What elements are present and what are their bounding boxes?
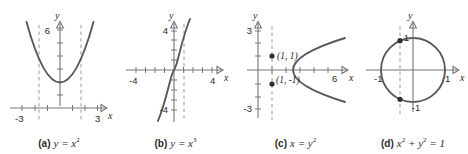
panel-b-plot: y x 4 -4 -4 4: [118, 0, 233, 128]
panel-a: y x 6 -3 3 (a)y = x2: [0, 0, 118, 154]
point-label-1-neg1: (1, -1): [276, 75, 300, 86]
y-axis-label: y: [168, 10, 174, 21]
panel-b: y x 4 -4 -4 4 (b)y = x3: [118, 0, 233, 154]
panel-b-svg: y x 4 -4 -4 4: [118, 0, 233, 128]
x-axis-label: x: [223, 72, 229, 83]
panel-a-equation: y = x2: [54, 137, 80, 149]
panel-c-svg: y x 3 -3 6 (1, 1) (1, -1): [233, 0, 358, 128]
panel-d-equation-base: x2 + y2 = 1: [397, 137, 445, 149]
x-tick-label-neg4: -4: [129, 75, 137, 86]
vertical-line-test-figure: y x 6 -3 3 (a)y = x2: [0, 0, 468, 154]
panel-a-tag: (a): [38, 138, 50, 149]
panel-b-caption: (b)y = x3: [118, 136, 233, 149]
panel-b-equation-exponent: 3: [193, 136, 197, 144]
panel-c-tag: (c): [275, 138, 287, 149]
panel-c-equation: x = y2: [290, 137, 316, 149]
x-tick-label-6: 6: [332, 73, 337, 84]
panel-d-equation: x2 + y2 = 1: [397, 137, 445, 149]
panel-b-tag: (b): [155, 138, 168, 149]
panel-c-equation-exponent: 2: [313, 136, 317, 144]
panel-c-equation-base: x = y: [290, 137, 313, 149]
x-axis-label: x: [459, 72, 465, 83]
x-tick-label-4: 4: [210, 75, 215, 86]
x-tick-label-3: 3: [95, 113, 100, 124]
y-tick-label-neg1: -1: [412, 102, 420, 113]
panel-d-tag: (d): [381, 138, 394, 149]
y-tick-label-1: 1: [404, 32, 409, 43]
panel-c-plot: y x 3 -3 6 (1, 1) (1, -1): [233, 0, 358, 128]
x-tick-label-1: 1: [445, 73, 450, 84]
y-tick-label-3: 3: [247, 25, 252, 36]
dot-lower-intersection: [397, 97, 402, 102]
panel-c: y x 3 -3 6 (1, 1) (1, -1) (c)x = y2: [233, 0, 358, 154]
y-tick-label-6: 6: [45, 25, 50, 36]
x-axis: [10, 105, 107, 112]
panel-d-plot: y x 1 -1 -1 1: [358, 0, 468, 128]
dot-point-1-neg1: [269, 81, 274, 86]
y-axis: [57, 22, 64, 107]
panel-a-plot: y x 6 -3 3: [0, 0, 118, 128]
x-axis-label: x: [348, 72, 354, 83]
panel-c-caption: (c)x = y2: [233, 136, 358, 149]
y-axis: [410, 22, 417, 113]
y-tick-label-4: 4: [163, 25, 168, 36]
y-axis-label: y: [252, 10, 258, 21]
y-tick-label-neg3: -3: [244, 103, 252, 114]
y-tick-label-neg4: -4: [160, 104, 168, 115]
x-axis-label: x: [107, 110, 113, 121]
panel-b-equation-base: y = x: [170, 137, 193, 149]
panel-a-caption: (a)y = x2: [0, 136, 118, 149]
panel-a-svg: y x 6 -3 3: [0, 0, 118, 128]
panel-d-caption: (d)x2 + y2 = 1: [358, 136, 468, 149]
panel-d: y x 1 -1 -1 1 (d)x2 + y2 = 1: [358, 0, 468, 154]
x-tick-label-neg3: -3: [15, 113, 23, 124]
y-axis-label: y: [407, 10, 413, 21]
panel-d-svg: y x 1 -1 -1 1: [358, 0, 468, 128]
y-axis-label: y: [54, 10, 60, 21]
x-tick-label-neg1: -1: [374, 73, 382, 84]
panel-a-equation-exponent: 2: [76, 136, 80, 144]
panel-b-equation: y = x3: [170, 137, 196, 149]
panel-a-equation-base: y = x: [54, 137, 77, 149]
dot-point-1-1: [269, 53, 274, 58]
dot-upper-intersection: [397, 38, 402, 43]
point-label-1-1: (1, 1): [277, 51, 298, 62]
